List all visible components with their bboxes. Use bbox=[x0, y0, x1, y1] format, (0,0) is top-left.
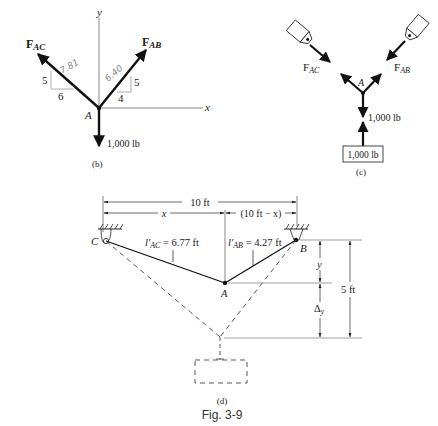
support-b-label: B bbox=[300, 242, 307, 254]
force-ac-label-c: FAC bbox=[303, 61, 320, 75]
force-ab-label: FAB bbox=[142, 35, 161, 50]
load-label-c: 1,000 lb bbox=[368, 112, 401, 123]
x-axis-label: x bbox=[204, 101, 210, 113]
cable-force-ab-arrow bbox=[387, 41, 405, 60]
triangle-ac-run: 6 bbox=[58, 90, 64, 102]
support-b-icon bbox=[284, 224, 309, 242]
delta-dim-label: Δy bbox=[314, 303, 325, 316]
panel-b-free-body: y x 5 6 5 4 7.81 6.40 FAC FAB A 1,000 lb… bbox=[26, 6, 210, 169]
panel-d-geometry: 10 ft x (10 ft − x) C B A bbox=[91, 196, 362, 406]
length-ab-label: l′AB = 4.27 ft bbox=[228, 237, 282, 250]
joint-force-ab-arrow bbox=[363, 74, 381, 93]
remainder-dim-label: (10 ft − x) bbox=[241, 208, 282, 220]
support-c-icon bbox=[98, 224, 123, 244]
deflected-cable-ab bbox=[220, 240, 296, 337]
y-axis-label: y bbox=[96, 6, 102, 18]
length-ac-label: l′AC = 6.77 ft bbox=[145, 237, 199, 250]
ring-a bbox=[223, 281, 227, 285]
triangle-ab-rise: 5 bbox=[134, 76, 140, 88]
figure-caption: Fig. 3-9 bbox=[202, 408, 243, 422]
figure-canvas: y x 5 6 5 4 7.81 6.40 FAC FAB A 1,000 lb… bbox=[0, 0, 438, 426]
panel-c-free-body: FAC FAB A 1,000 lb 1,000 lb (c) bbox=[286, 14, 429, 177]
deflected-cable-ac bbox=[106, 241, 220, 337]
hypotenuse-note-ac: 7.81 bbox=[58, 57, 80, 76]
load-label: 1,000 lb bbox=[107, 138, 140, 149]
panel-b-label: (b) bbox=[92, 159, 103, 169]
span-dim-label: 10 ft bbox=[190, 197, 210, 208]
triangle-ac-rise: 5 bbox=[42, 74, 48, 86]
triangle-ab-run: 4 bbox=[118, 92, 124, 104]
force-ac-label: FAC bbox=[26, 37, 46, 52]
cable-force-ac-arrow bbox=[310, 45, 330, 62]
x-dim-label: x bbox=[161, 208, 167, 219]
point-a-label-d: A bbox=[220, 288, 228, 299]
height-dim-label: 5 ft bbox=[341, 284, 355, 295]
force-ab-label-c: FAB bbox=[394, 61, 410, 75]
point-a-label-c: A bbox=[357, 77, 365, 88]
cable-anchor-ac-icon bbox=[286, 20, 314, 47]
joint-a bbox=[97, 106, 101, 110]
point-a-label: A bbox=[84, 109, 92, 121]
y-dim-label: y bbox=[316, 259, 322, 270]
cable-anchor-ab-icon bbox=[402, 14, 429, 42]
panel-c-label: (c) bbox=[356, 167, 366, 177]
support-c-label: C bbox=[91, 235, 99, 247]
joint-a-c bbox=[361, 91, 365, 95]
panel-d-label: (d) bbox=[217, 396, 228, 406]
weight-box-label: 1,000 lb bbox=[347, 150, 378, 160]
deflected-weight-box bbox=[195, 360, 247, 383]
